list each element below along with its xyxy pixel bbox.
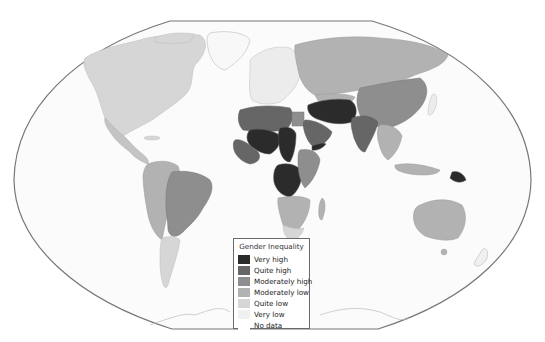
swatch-very-low xyxy=(238,310,250,319)
legend-label: Quite high xyxy=(254,266,291,275)
legend-label: Very high xyxy=(254,255,288,264)
legend-item-quite-high: Quite high xyxy=(238,265,305,276)
swatch-moderately-low xyxy=(238,288,250,297)
swatch-quite-low xyxy=(238,299,250,308)
legend-item-no-data: No data xyxy=(238,320,305,331)
legend-label: No data xyxy=(254,321,282,330)
legend-item-very-high: Very high xyxy=(238,254,305,265)
legend-label: Moderately high xyxy=(254,277,312,286)
legend-item-moderately-low: Moderately low xyxy=(238,287,305,298)
legend-item-moderately-high: Moderately high xyxy=(238,276,305,287)
region-egypt xyxy=(292,112,304,126)
legend-item-very-low: Very low xyxy=(238,309,305,320)
swatch-quite-high xyxy=(238,266,250,275)
swatch-moderately-high xyxy=(238,277,250,286)
region-caribbean xyxy=(144,136,160,140)
legend-title: Gender Inequality xyxy=(238,242,305,252)
legend-label: Quite low xyxy=(254,299,288,308)
swatch-very-high xyxy=(238,255,250,264)
legend: Gender Inequality Very high Quite high M… xyxy=(233,238,310,329)
legend-label: Very low xyxy=(254,310,285,319)
legend-item-quite-low: Quite low xyxy=(238,298,305,309)
region-tasmania xyxy=(441,249,447,255)
legend-label: Moderately low xyxy=(254,288,309,297)
swatch-no-data xyxy=(238,321,250,330)
